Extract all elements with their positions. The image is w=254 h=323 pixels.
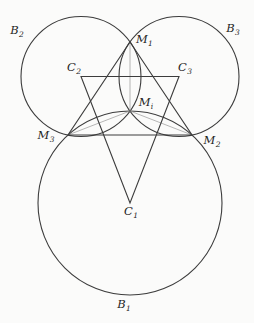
- figure-page: B2B3M1C2C3MiM3M2C1B1: [0, 0, 254, 323]
- label-B1-sub: 1: [126, 304, 131, 313]
- label-Mi-main: M: [138, 95, 152, 109]
- label-C2-sub: 2: [75, 67, 81, 76]
- label-M2-main: M: [203, 133, 217, 147]
- label-C3-main: C: [178, 60, 187, 74]
- label-C1-sub: 1: [133, 211, 138, 220]
- label-C3-sub: 3: [187, 67, 192, 76]
- label-C3: C3: [178, 60, 192, 76]
- label-B3: B3: [225, 21, 240, 37]
- label-M1-sub: 1: [148, 39, 153, 48]
- label-M3-main: M: [37, 128, 51, 142]
- label-B1: B1: [116, 297, 131, 313]
- label-C1-main: C: [124, 204, 133, 218]
- label-B1-main: B: [116, 297, 125, 311]
- label-B3-main: B: [225, 21, 234, 35]
- label-B2: B2: [9, 23, 24, 39]
- label-B2-main: B: [9, 23, 18, 37]
- label-M1: M1: [135, 32, 153, 48]
- label-B2-sub: 2: [18, 30, 24, 39]
- figure-canvas: B2B3M1C2C3MiM3M2C1B1: [0, 0, 254, 323]
- label-M1-main: M: [135, 32, 149, 46]
- label-M2-sub: 2: [215, 140, 221, 149]
- label-Mi-sub: i: [151, 102, 154, 111]
- label-Mi: Mi: [138, 95, 154, 111]
- label-C2-main: C: [67, 60, 76, 74]
- label-M3: M3: [37, 128, 55, 144]
- label-M3-sub: 3: [50, 135, 55, 144]
- label-B3-sub: 3: [235, 28, 240, 37]
- label-M2: M2: [203, 133, 221, 149]
- label-C2: C2: [67, 60, 81, 76]
- label-C1: C1: [124, 204, 138, 220]
